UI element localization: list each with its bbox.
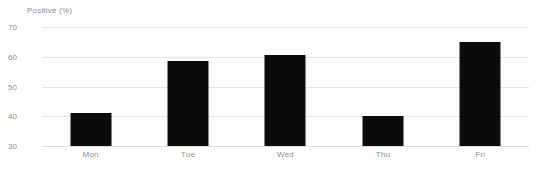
bar-slot <box>42 27 139 146</box>
bar[interactable] <box>362 116 403 146</box>
bar-slot <box>139 27 236 146</box>
bar[interactable] <box>265 55 306 146</box>
x-axis-tick-label: Mon <box>42 150 139 159</box>
x-axis-tick-label: Fri <box>432 150 529 159</box>
bar-series <box>42 27 529 146</box>
x-axis-tick-label: Tue <box>139 150 236 159</box>
bar-slot <box>237 27 334 146</box>
y-axis-ticks: 7060504030 <box>0 27 42 146</box>
bar-chart: Positive (%) 7060504030 MonTueWedThuFri <box>0 0 537 173</box>
bar-slot <box>334 27 431 146</box>
bar[interactable] <box>460 42 501 146</box>
y-axis-tick-label: 30 <box>8 142 42 151</box>
x-axis-tick-label: Wed <box>237 150 334 159</box>
y-axis-tick-label: 50 <box>8 82 42 91</box>
y-axis-title: Positive (%) <box>27 6 72 15</box>
bar-slot <box>432 27 529 146</box>
x-axis-tick-label: Thu <box>334 150 431 159</box>
y-axis-tick-label: 70 <box>8 23 42 32</box>
bar[interactable] <box>70 113 111 146</box>
bar[interactable] <box>168 61 209 146</box>
x-axis-ticks: MonTueWedThuFri <box>42 150 529 170</box>
y-axis-tick-label: 40 <box>8 112 42 121</box>
y-axis-tick-label: 60 <box>8 52 42 61</box>
gridline <box>42 146 529 147</box>
